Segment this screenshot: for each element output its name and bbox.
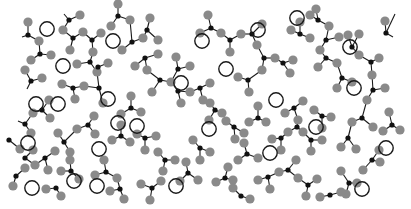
- grey-atom: [216, 28, 225, 37]
- grey-atom: [65, 155, 74, 164]
- grey-atom: [112, 173, 121, 182]
- black-node: [227, 37, 232, 42]
- open-circle: [21, 136, 35, 150]
- grey-atom: [153, 49, 162, 58]
- grey-atom: [105, 186, 114, 195]
- grey-atom: [228, 183, 237, 192]
- black-node: [383, 30, 388, 35]
- grey-atom: [347, 77, 356, 86]
- grey-atom: [30, 160, 39, 169]
- black-node: [197, 145, 202, 150]
- grey-atom: [336, 142, 345, 151]
- grey-atom: [205, 78, 214, 87]
- black-node: [89, 37, 94, 42]
- open-circle: [219, 62, 233, 76]
- grey-atom: [244, 117, 253, 126]
- grey-atom: [211, 177, 220, 186]
- grey-atom: [79, 81, 88, 90]
- black-node: [6, 137, 11, 142]
- grey-atom: [72, 124, 81, 133]
- grey-atom: [317, 135, 326, 144]
- grey-atom: [280, 108, 289, 117]
- open-circle: [29, 97, 43, 111]
- black-node: [142, 55, 147, 60]
- grey-atom: [205, 147, 214, 156]
- black-node: [265, 174, 270, 179]
- grey-atom: [188, 135, 197, 144]
- grey-atom: [223, 162, 232, 171]
- black-node: [175, 66, 180, 71]
- black-node: [128, 105, 133, 110]
- grey-atom: [46, 50, 55, 59]
- grey-atom: [336, 166, 345, 175]
- grey-atom: [113, 0, 122, 9]
- black-node: [13, 173, 18, 178]
- grey-atom: [195, 155, 204, 164]
- grey-atom: [233, 72, 242, 81]
- black-node: [162, 157, 167, 162]
- black-node: [245, 77, 250, 82]
- grey-atom: [185, 87, 194, 96]
- black-node: [285, 167, 290, 172]
- black-node: [238, 193, 243, 198]
- grey-atom: [313, 62, 322, 71]
- open-circle: [92, 142, 106, 156]
- open-circle: [51, 97, 65, 111]
- black-node: [142, 135, 147, 140]
- grey-atom: [309, 105, 318, 114]
- black-node: [95, 64, 100, 69]
- atoms-layer: [8, 0, 404, 205]
- grey-atom: [293, 115, 302, 124]
- grey-atom: [89, 111, 98, 120]
- grey-atom: [43, 165, 52, 174]
- grey-atom: [56, 166, 65, 175]
- black-node: [129, 39, 134, 44]
- grey-atom: [334, 32, 343, 41]
- grey-atom: [374, 53, 383, 62]
- grey-atom: [239, 138, 248, 147]
- grey-atom: [368, 122, 377, 131]
- grey-atom: [367, 70, 376, 79]
- grey-atom: [343, 30, 352, 39]
- grey-atom: [130, 61, 139, 70]
- grey-atom: [34, 36, 43, 45]
- black-node: [359, 115, 364, 120]
- grey-atom: [380, 83, 389, 92]
- grey-atom: [65, 147, 74, 156]
- grey-atom: [253, 175, 262, 184]
- black-node: [28, 78, 33, 83]
- grey-atom: [301, 191, 310, 200]
- grey-atom: [253, 101, 262, 110]
- black-node: [369, 157, 374, 162]
- grey-atom: [293, 173, 302, 182]
- grey-atom: [315, 45, 324, 54]
- black-node: [115, 13, 120, 18]
- grey-atom: [158, 166, 167, 175]
- grey-atom: [20, 65, 29, 74]
- grey-atom: [358, 165, 367, 174]
- grey-atom: [125, 15, 134, 24]
- grey-atom: [8, 181, 17, 190]
- grey-atom: [230, 134, 239, 143]
- grey-atom: [176, 98, 185, 107]
- grey-atom: [193, 175, 202, 184]
- black-node: [323, 37, 328, 42]
- black-node: [389, 122, 394, 127]
- grey-atom: [171, 52, 180, 61]
- black-node: [85, 122, 90, 127]
- grey-atom: [145, 195, 154, 204]
- grey-atom: [253, 153, 262, 162]
- grey-atom: [312, 174, 321, 183]
- black-node: [346, 180, 351, 185]
- grey-atom: [283, 127, 292, 136]
- black-node: [42, 155, 47, 160]
- grey-atom: [132, 129, 141, 138]
- grey-atom: [311, 4, 320, 13]
- grey-atom: [228, 175, 237, 184]
- black-node: [87, 59, 92, 64]
- grey-atom: [221, 116, 230, 125]
- open-circle: [355, 182, 369, 196]
- grey-atom: [326, 112, 335, 121]
- grey-atom: [347, 117, 356, 126]
- black-node: [70, 35, 75, 40]
